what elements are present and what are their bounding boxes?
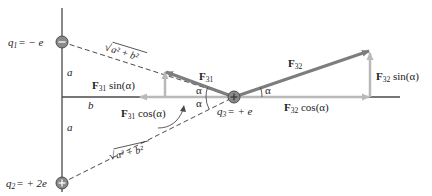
q2-label: q2= + 2e	[6, 177, 47, 191]
f31-cos-label: F31 cos(α)	[121, 107, 166, 121]
angle-arc-lower-left	[206, 97, 209, 109]
f31-sin-label: F31 sin(α)	[92, 79, 135, 93]
q1-label: q1= − e	[8, 36, 44, 50]
angle-arc-upper-left	[206, 88, 208, 98]
f32-label: F32	[288, 57, 302, 71]
hypotenuse-lower-label: √ a² + b²	[108, 141, 152, 162]
svg-text:a² + b²: a² + b²	[110, 43, 141, 62]
svg-text:a² + b²: a² + b²	[115, 143, 145, 160]
q3-label: q3= + e	[217, 105, 253, 119]
alpha-label-upper-left: α	[196, 84, 202, 96]
distance-b: b	[88, 99, 94, 111]
distance-a-upper: a	[67, 66, 73, 78]
charge-q3	[228, 91, 240, 103]
distance-a-lower: a	[67, 121, 73, 133]
alpha-label-lower-left: α	[196, 97, 202, 109]
alpha-label-right: α	[265, 84, 271, 96]
callout-arrowhead-icon	[180, 105, 186, 112]
f32-sin-label: F32 sin(α)	[376, 70, 419, 84]
f31-label: F31	[199, 70, 213, 84]
hypotenuse-upper-label: √ a² + b²	[103, 40, 147, 64]
f32-cos-label: F32 cos(α)	[284, 101, 329, 115]
charge-q2	[56, 177, 68, 189]
coulomb-force-diagram: q1= − e q2= + 2e q3= + e a a b √ a² + b²…	[0, 0, 432, 196]
charge-q1	[56, 36, 68, 48]
f32-arrow	[234, 51, 369, 97]
